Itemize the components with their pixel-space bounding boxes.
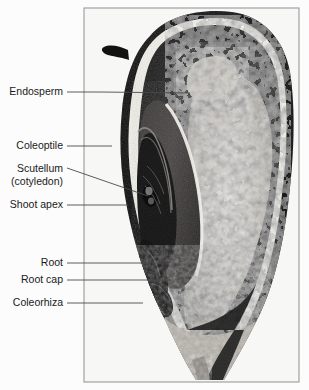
- micrograph-panel: [84, 8, 299, 384]
- label-root-cap: Root cap: [21, 273, 63, 285]
- label-coleorhiza: Coleorhiza: [13, 296, 63, 308]
- figure-canvas: Endosperm Coleoptile Scutellum (cotyledo…: [0, 0, 309, 390]
- label-root: Root: [41, 256, 63, 268]
- label-scutellum-subtext: (cotyledon): [11, 175, 63, 187]
- label-scutellum: Scutellum: [17, 162, 63, 174]
- label-shoot-apex: Shoot apex: [10, 198, 64, 210]
- label-coleoptile: Coleoptile: [16, 139, 63, 151]
- label-endosperm: Endosperm: [9, 85, 63, 97]
- seed-anatomy-figure: Endosperm Coleoptile Scutellum (cotyledo…: [0, 0, 309, 390]
